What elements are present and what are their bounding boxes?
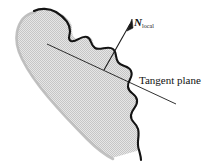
normal-vector-label: Nlocal bbox=[134, 17, 154, 29]
normal-symbol: N bbox=[134, 16, 142, 28]
surface-body-shape bbox=[16, 9, 140, 158]
figure-canvas: Nlocal Tangent plane bbox=[0, 0, 211, 167]
tangent-plane-label: Tangent plane bbox=[139, 75, 201, 86]
normal-arrow-head bbox=[127, 19, 133, 31]
normal-subscript: local bbox=[142, 23, 154, 29]
